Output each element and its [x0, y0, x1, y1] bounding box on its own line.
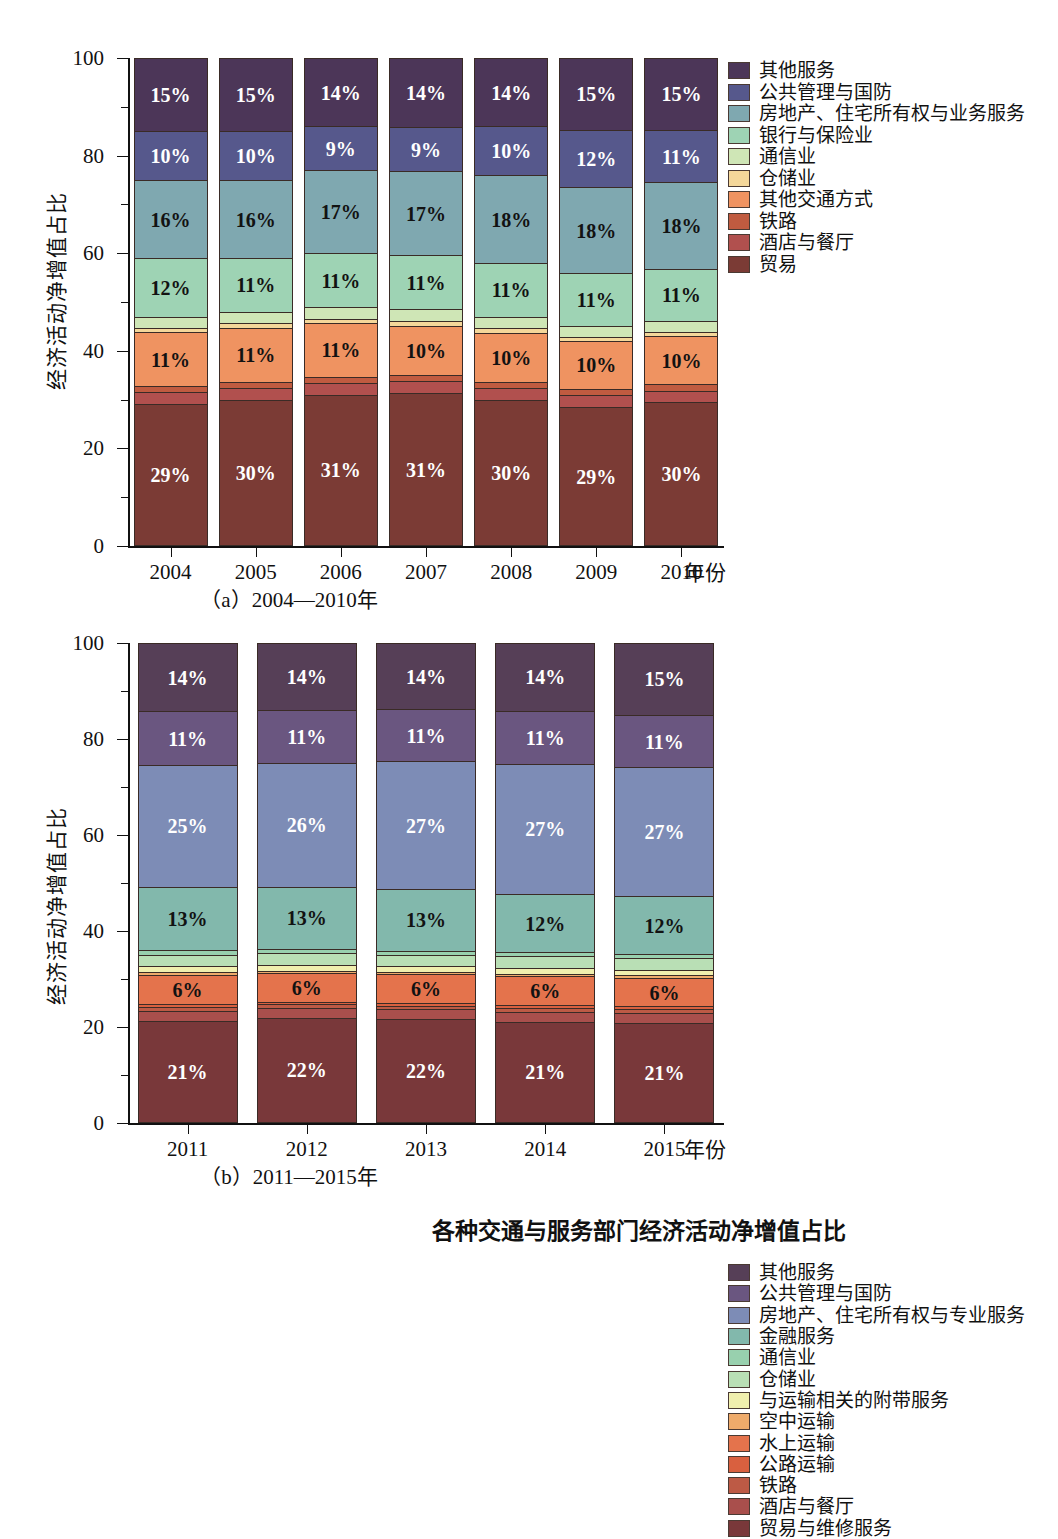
bar-segment[interactable]: 17% [304, 170, 378, 253]
bar-segment[interactable] [495, 956, 595, 968]
bar-segment[interactable] [495, 1008, 595, 1012]
bar-segment[interactable] [304, 383, 378, 395]
bar-segment[interactable] [257, 1004, 357, 1008]
bar-segment[interactable]: 11% [304, 253, 378, 307]
bar-segment[interactable] [376, 1009, 476, 1018]
bar-segment[interactable] [257, 965, 357, 971]
bar-segment[interactable]: 10% [644, 336, 718, 384]
bar-segment[interactable] [559, 326, 633, 337]
bar-segment[interactable] [474, 328, 548, 332]
bar-segment[interactable] [614, 1006, 714, 1009]
bar-segment[interactable]: 11% [389, 255, 463, 309]
stacked-bar[interactable]: 31%10%11%17%9%14% [389, 58, 463, 546]
bar-segment[interactable]: 11% [219, 328, 293, 382]
bar-segment[interactable]: 21% [614, 1023, 714, 1123]
bar-segment[interactable]: 6% [257, 973, 357, 1002]
bar-segment[interactable] [134, 386, 208, 392]
bar-segment[interactable]: 6% [495, 976, 595, 1005]
bar-segment[interactable] [138, 955, 238, 967]
bar-segment[interactable]: 22% [376, 1019, 476, 1123]
bar-segment[interactable] [138, 1007, 238, 1011]
bar-segment[interactable]: 15% [644, 58, 718, 130]
bar-segment[interactable] [389, 375, 463, 381]
bar-segment[interactable]: 15% [559, 58, 633, 130]
bar-segment[interactable] [495, 1005, 595, 1008]
bar-segment[interactable] [138, 1004, 238, 1007]
bar-segment[interactable] [559, 337, 633, 341]
bar-segment[interactable]: 13% [376, 889, 476, 951]
legend-item[interactable]: 公路运输 [728, 1454, 1025, 1475]
bar-segment[interactable]: 30% [474, 400, 548, 546]
bar-segment[interactable]: 11% [474, 263, 548, 317]
bar-segment[interactable] [614, 970, 714, 976]
bar-segment[interactable] [257, 949, 357, 953]
bar-segment[interactable]: 16% [134, 180, 208, 258]
bar-segment[interactable]: 10% [219, 131, 293, 180]
bar-segment[interactable]: 14% [138, 643, 238, 711]
bar-segment[interactable] [257, 971, 357, 973]
bar-segment[interactable] [644, 391, 718, 403]
legend-item[interactable]: 公共管理与国防 [728, 1283, 1025, 1304]
legend-item[interactable]: 房地产、住宅所有权与业务服务 [728, 103, 1025, 125]
bar-segment[interactable]: 11% [644, 130, 718, 183]
bar-segment[interactable] [614, 1009, 714, 1013]
bar-segment[interactable]: 14% [389, 58, 463, 127]
bar-segment[interactable]: 15% [134, 58, 208, 131]
stacked-bar[interactable]: 29%10%11%18%12%15% [559, 58, 633, 546]
bar-segment[interactable]: 29% [559, 407, 633, 546]
legend-item[interactable]: 空中运输 [728, 1411, 1025, 1432]
bar-segment[interactable] [474, 388, 548, 400]
bar-segment[interactable]: 31% [389, 393, 463, 546]
bar-segment[interactable] [495, 968, 595, 974]
stacked-bar[interactable]: 21%6%12%27%11%14% [495, 643, 595, 1123]
legend-item[interactable]: 仓储业 [728, 1368, 1025, 1389]
legend-item[interactable]: 公共管理与国防 [728, 82, 1025, 104]
bar-segment[interactable]: 10% [474, 333, 548, 382]
bar-segment[interactable] [614, 1013, 714, 1023]
bar-segment[interactable] [219, 312, 293, 324]
bar-segment[interactable]: 27% [495, 764, 595, 894]
stacked-bar[interactable]: 21%6%13%25%11%14% [138, 643, 238, 1123]
legend-item[interactable]: 通信业 [728, 146, 1025, 168]
bar-segment[interactable]: 10% [389, 326, 463, 375]
legend-item[interactable]: 金融服务 [728, 1326, 1025, 1347]
legend-item[interactable]: 房地产、住宅所有权与专业服务 [728, 1305, 1025, 1326]
bar-segment[interactable] [389, 309, 463, 321]
bar-segment[interactable]: 11% [257, 710, 357, 763]
bar-segment[interactable]: 16% [219, 180, 293, 258]
bar-segment[interactable]: 6% [376, 974, 476, 1002]
bar-segment[interactable] [644, 332, 718, 336]
bar-segment[interactable] [138, 972, 238, 974]
bar-segment[interactable]: 17% [389, 171, 463, 255]
bar-segment[interactable]: 11% [376, 709, 476, 761]
bar-segment[interactable] [138, 1011, 238, 1021]
bar-segment[interactable]: 11% [138, 711, 238, 765]
bar-segment[interactable]: 15% [614, 643, 714, 715]
legend-item[interactable]: 其他交通方式 [728, 189, 1025, 211]
legend-item[interactable]: 贸易与维修服务 [728, 1518, 1025, 1539]
bar-segment[interactable] [376, 966, 476, 972]
legend-item[interactable]: 仓储业 [728, 168, 1025, 190]
bar-segment[interactable] [257, 953, 357, 964]
bar-segment[interactable]: 9% [389, 127, 463, 171]
bar-segment[interactable] [257, 1002, 357, 1005]
bar-segment[interactable]: 29% [134, 404, 208, 546]
bar-segment[interactable]: 12% [614, 896, 714, 953]
bar-segment[interactable]: 26% [257, 763, 357, 887]
bar-segment[interactable]: 30% [219, 400, 293, 546]
bar-segment[interactable]: 25% [138, 765, 238, 887]
bar-segment[interactable]: 21% [495, 1022, 595, 1123]
bar-segment[interactable] [389, 381, 463, 393]
legend-item[interactable]: 其他服务 [728, 1262, 1025, 1283]
bar-segment[interactable]: 11% [559, 273, 633, 326]
stacked-bar[interactable]: 30%10%11%18%10%14% [474, 58, 548, 546]
legend-item[interactable]: 贸易 [728, 254, 1025, 276]
bar-segment[interactable]: 12% [134, 258, 208, 317]
bar-segment[interactable]: 14% [376, 643, 476, 709]
bar-segment[interactable]: 18% [644, 182, 718, 268]
legend-item[interactable]: 酒店与餐厅 [728, 232, 1025, 254]
bar-segment[interactable]: 13% [138, 887, 238, 950]
bar-segment[interactable]: 6% [614, 978, 714, 1007]
bar-segment[interactable]: 14% [495, 643, 595, 711]
bar-segment[interactable]: 31% [304, 395, 378, 546]
